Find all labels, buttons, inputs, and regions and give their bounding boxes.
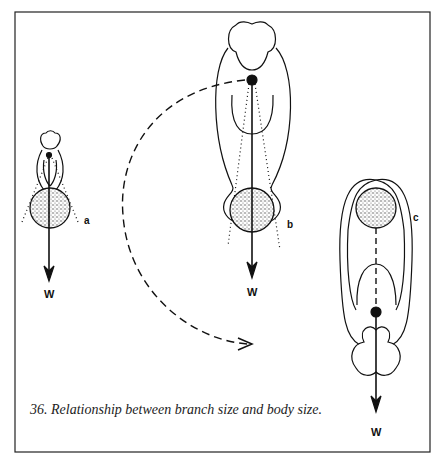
head-a <box>41 131 61 149</box>
panel-label-c: c <box>413 212 419 223</box>
weight-label-a: W <box>44 288 55 300</box>
weight-label-b: W <box>247 286 258 298</box>
panel-a <box>22 131 78 281</box>
panel-b <box>216 22 291 278</box>
figure-caption: 36. Relationship between branch size and… <box>29 402 322 417</box>
branch-c <box>356 188 396 228</box>
figure-frame <box>15 12 430 452</box>
panel-label-a: a <box>84 215 90 226</box>
panel-label-b: b <box>287 219 293 230</box>
head-b <box>229 22 276 70</box>
panel-c <box>340 179 412 412</box>
weight-label-c: W <box>371 426 382 438</box>
diagram-canvas: W a W b <box>0 0 443 456</box>
branch-a <box>30 188 70 228</box>
